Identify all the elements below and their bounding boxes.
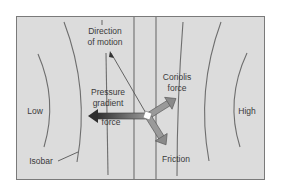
low-label-text: Low — [27, 106, 43, 116]
direction-label-line1: Direction — [80, 26, 130, 37]
coriolis-label-line2: force — [152, 83, 202, 94]
isobar-leader-line — [58, 152, 78, 161]
isobar-right — [205, 22, 221, 161]
low-pressure-label: Low — [20, 106, 50, 117]
direction-label-line2: of motion — [80, 37, 130, 48]
isobar-left — [64, 22, 81, 162]
friction-label-text: Friction — [162, 154, 190, 164]
friction-label: Friction — [156, 154, 196, 165]
high-label-text: High — [238, 106, 255, 116]
isobar-lines — [38, 17, 247, 179]
pressure-gradient-force-label: Pressure gradient force — [84, 87, 132, 128]
coriolis-force-label: Coriolis force — [152, 72, 202, 94]
isobar-far-left — [38, 54, 50, 147]
isobar-label: Isobar — [24, 156, 58, 167]
pressure-label-line3: force — [90, 117, 132, 128]
pressure-label-line1: Pressure — [84, 87, 132, 98]
pressure-label-line2: gradient — [84, 98, 132, 109]
coriolis-label-line1: Coriolis — [152, 72, 202, 83]
isobar-label-text: Isobar — [29, 156, 53, 166]
direction-of-motion-label: Direction of motion — [80, 26, 130, 48]
isobar-far-right — [234, 53, 247, 147]
high-pressure-label: High — [232, 106, 262, 117]
isobar-mid-right — [177, 22, 183, 176]
